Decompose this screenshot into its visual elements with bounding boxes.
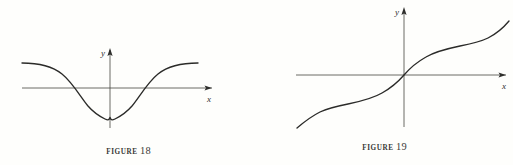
figure-19: y x Figure19 — [256, 0, 513, 165]
figure-18-caption-word: Figure — [106, 148, 137, 156]
figure-18-caption-number: 18 — [140, 145, 151, 156]
figure-19-curve — [297, 21, 509, 128]
figure-19-y-axis-label: y — [394, 7, 399, 17]
figure-18-caption: Figure18 — [0, 140, 257, 158]
figure-19-caption-number: 19 — [396, 141, 407, 152]
figure-19-x-axis-label: x — [501, 81, 506, 91]
figure-19-plot: y x — [256, 0, 513, 132]
figure-19-caption: Figure19 — [256, 136, 513, 154]
figure-page: y x Figure18 y x Figure19 — [0, 0, 513, 165]
figure-18: y x Figure18 — [0, 0, 257, 165]
figure-18-y-axis-label: y — [100, 48, 105, 58]
figure-18-x-axis-label: x — [206, 94, 211, 104]
figure-18-plot: y x — [0, 0, 257, 135]
figure-19-caption-word: Figure — [362, 144, 393, 152]
